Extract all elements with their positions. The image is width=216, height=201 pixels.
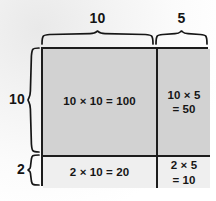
brace-left-10-icon [28, 47, 40, 153]
area-cell-top-left-label: 10 × 10 = 100 [63, 95, 135, 109]
brace-top-10-icon [41, 31, 154, 44]
area-cell-bottom-right: 2 × 5 = 10 [156, 155, 210, 188]
area-cell-bottom-left-label: 2 × 10 = 20 [70, 166, 129, 180]
brace-left-2-icon [28, 154, 40, 186]
area-cell-bottom-left: 2 × 10 = 20 [43, 155, 156, 188]
dimension-label-top-5: 5 [155, 10, 208, 26]
dimension-label-left-2: 2 [0, 161, 25, 177]
dimension-label-left-10: 10 [0, 91, 25, 107]
area-cell-top-right-label: 10 × 5 = 50 [168, 88, 201, 116]
area-cell-top-right: 10 × 5 = 50 [156, 49, 210, 155]
area-model-diagram: 10 5 10 2 10 × 10 = 100 10 × 5 = 50 2 × [0, 0, 216, 201]
area-cell-top-left: 10 × 10 = 100 [43, 49, 156, 155]
area-cell-bottom-right-label: 2 × 5 = 10 [171, 158, 197, 186]
brace-top-5-icon [155, 31, 208, 44]
area-model-grid: 10 × 10 = 100 10 × 5 = 50 2 × 10 = 20 2 … [41, 47, 208, 186]
